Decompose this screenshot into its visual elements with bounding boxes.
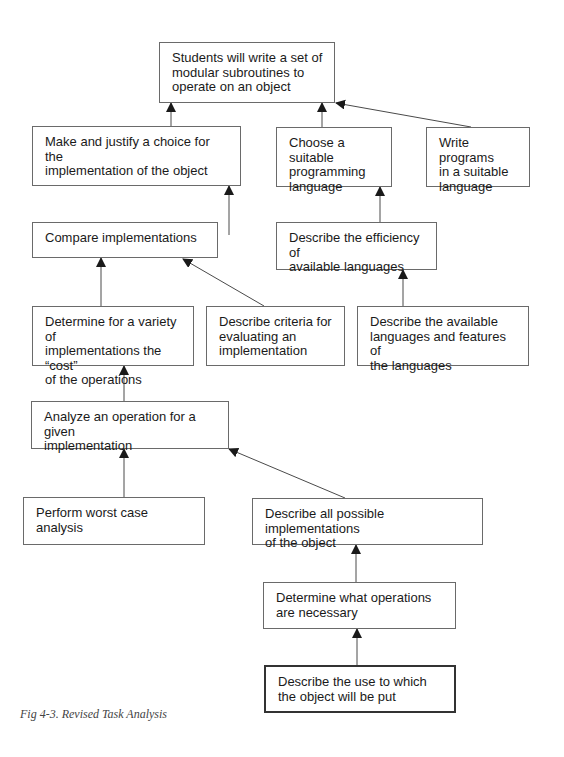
task-node: Describe the available languages and fea… [357, 306, 529, 366]
task-node: Describe the efficiency of available lan… [276, 222, 437, 270]
task-node: Make and justify a choice for the implem… [32, 126, 241, 186]
task-node: Describe all possible implementations of… [252, 498, 483, 545]
task-node: Describe criteria for evaluating an impl… [206, 306, 345, 366]
task-node: Determine what operations are necessary [263, 582, 456, 629]
task-node: Describe the use to which the object wil… [264, 665, 456, 713]
task-node: Choose a suitable programming language [276, 127, 392, 187]
task-node: Determine for a variety of implementatio… [32, 306, 194, 366]
arrow-icon [183, 259, 264, 306]
task-analysis-diagram: Students will write a set of modular sub… [0, 0, 564, 757]
task-node: Analyze an operation for a given impleme… [31, 401, 229, 449]
arrow-icon [336, 103, 471, 127]
task-node: Compare implementations [32, 222, 218, 258]
task-node: Write programs in a suitable language [426, 127, 530, 187]
task-node: Students will write a set of modular sub… [159, 42, 335, 103]
figure-caption: Fig 4-3. Revised Task Analysis [20, 707, 167, 722]
task-node: Perform worst case analysis [23, 497, 205, 545]
arrow-icon [229, 449, 345, 498]
